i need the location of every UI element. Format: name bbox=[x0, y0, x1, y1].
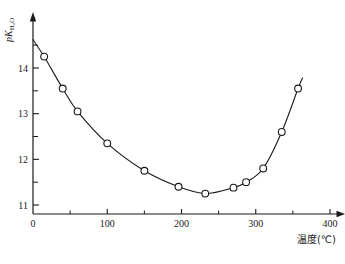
chart-figure: pKH₂O 0100200300400 11121314 温度(℃) bbox=[0, 0, 345, 264]
y-tick-label: 11 bbox=[18, 200, 28, 211]
x-axis-arrowhead bbox=[337, 211, 345, 217]
x-axis-title: 温度(℃) bbox=[297, 233, 336, 245]
x-tick-labels: 0100200300400 bbox=[31, 218, 338, 229]
data-point-marker bbox=[59, 85, 66, 92]
x-tick-label: 200 bbox=[174, 218, 189, 229]
data-point-marker bbox=[141, 167, 148, 174]
data-point-marker bbox=[41, 53, 48, 60]
plot-area: 0100200300400 11121314 温度(℃) bbox=[0, 0, 345, 264]
data-markers bbox=[41, 53, 302, 197]
y-tick-label: 14 bbox=[18, 63, 28, 74]
x-tick-label: 400 bbox=[323, 218, 338, 229]
x-tick-label: 300 bbox=[248, 218, 263, 229]
data-point-marker bbox=[74, 108, 81, 115]
data-point-marker bbox=[278, 129, 285, 136]
x-tick-label: 100 bbox=[100, 218, 115, 229]
data-point-marker bbox=[260, 165, 267, 172]
y-tick-label: 13 bbox=[18, 108, 28, 119]
data-point-marker bbox=[230, 184, 237, 191]
y-tick-labels: 11121314 bbox=[18, 63, 28, 211]
y-axis-arrowhead bbox=[30, 12, 36, 22]
data-point-marker bbox=[104, 140, 111, 147]
data-point-marker bbox=[202, 190, 209, 197]
data-point-marker bbox=[175, 183, 182, 190]
data-point-marker bbox=[295, 85, 302, 92]
data-point-marker bbox=[243, 179, 250, 186]
y-tick-label: 12 bbox=[18, 154, 28, 165]
x-tick-label: 0 bbox=[31, 218, 36, 229]
